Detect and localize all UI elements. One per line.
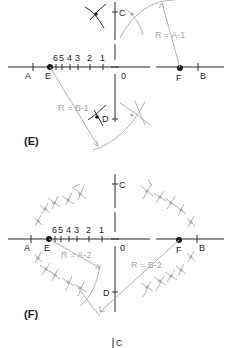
tick-3-e: 3 bbox=[75, 53, 80, 63]
label-b-f: B bbox=[199, 243, 205, 253]
label-c-next: C bbox=[116, 338, 123, 348]
radius-label-b-f: R = B-2 bbox=[131, 260, 162, 270]
label-a-e: A bbox=[25, 71, 31, 81]
label-c-e: C bbox=[119, 8, 126, 18]
tick-1-e: 1 bbox=[100, 53, 105, 63]
tick-5-f: 5 bbox=[58, 225, 63, 235]
radius-label-a-f: R = A-2 bbox=[61, 250, 91, 260]
tick-2-f: 2 bbox=[86, 225, 91, 235]
panel-f: A E 0 F B C D 6 5 4 3 2 1 R = A-2 R = B-… bbox=[8, 174, 224, 320]
label-f-e: F bbox=[176, 73, 182, 83]
tick-5-e: 5 bbox=[59, 53, 64, 63]
panel-e: A E 0 F B C D 6 5 4 3 2 1 R = A-1 R = B-… bbox=[8, 0, 224, 150]
tick-2-e: 2 bbox=[87, 53, 92, 63]
label-c-f: C bbox=[119, 180, 126, 190]
label-a-f: A bbox=[24, 243, 30, 253]
tick-6-e: 6 bbox=[53, 53, 58, 63]
ellipse-construction-diagram: A E 0 F B C D 6 5 4 3 2 1 R = A-1 R = B-… bbox=[0, 0, 229, 348]
tick-1-f: 1 bbox=[99, 225, 104, 235]
panel-label-f: (F) bbox=[24, 308, 38, 320]
radius-label-b-e: R = B-1 bbox=[58, 103, 89, 113]
label-o-e: 0 bbox=[121, 71, 126, 81]
radius-label-a-e: R = A-1 bbox=[155, 30, 185, 40]
label-d-f: D bbox=[103, 288, 110, 298]
tick-3-f: 3 bbox=[74, 225, 79, 235]
label-b-e: B bbox=[200, 71, 206, 81]
tick-4-f: 4 bbox=[66, 225, 71, 235]
label-o-f: 0 bbox=[120, 243, 125, 253]
label-d-e: D bbox=[102, 114, 109, 124]
panel-label-e: (E) bbox=[24, 135, 39, 147]
tick-6-f: 6 bbox=[52, 225, 57, 235]
label-e-f: E bbox=[44, 243, 50, 253]
label-e-e: E bbox=[45, 71, 51, 81]
tick-4-e: 4 bbox=[67, 53, 72, 63]
label-f-f: F bbox=[176, 245, 182, 255]
next-panel-fragment: C bbox=[113, 338, 123, 348]
